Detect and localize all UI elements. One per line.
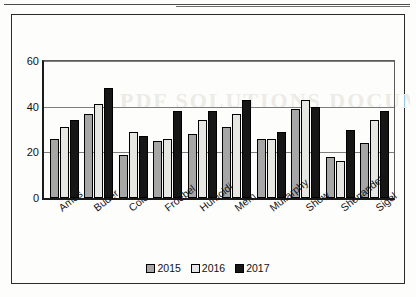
bar-group — [185, 61, 220, 198]
bar-froebel-2015[interactable] — [153, 141, 162, 198]
bar-humoldi-2017[interactable] — [208, 111, 217, 198]
bar-buder-2017[interactable] — [104, 88, 113, 198]
legend-label: 2017 — [246, 262, 269, 274]
bar-group — [254, 61, 289, 198]
bar-colo-2016[interactable] — [129, 132, 138, 198]
bar-ames-2015[interactable] — [50, 139, 59, 198]
y-tick-label: 20 — [27, 146, 39, 158]
bar-humoldi-2016[interactable] — [198, 120, 207, 198]
bar-group — [82, 61, 117, 198]
bar-mullarphy-2015[interactable] — [257, 139, 266, 198]
legend-item-2015[interactable]: 2015 — [146, 262, 180, 274]
bar-group — [47, 61, 82, 198]
x-label-cell: Froebel — [148, 202, 183, 258]
bar-group — [220, 61, 255, 198]
y-tick-label: 40 — [27, 101, 39, 113]
bar-mem-2016[interactable] — [232, 114, 241, 198]
bar-shenandeh-2017[interactable] — [346, 130, 355, 199]
bar-buder-2016[interactable] — [94, 104, 103, 198]
legend-swatch-icon — [191, 264, 200, 273]
legend-label: 2015 — [157, 262, 180, 274]
x-label-cell: Shenandeh — [324, 202, 359, 258]
bar-froebel-2016[interactable] — [163, 139, 172, 198]
legend-swatch-icon — [235, 264, 244, 273]
bar-ames-2016[interactable] — [60, 127, 69, 198]
x-label-cell: Mem — [218, 202, 253, 258]
bar-shenandeh-2016[interactable] — [336, 161, 345, 198]
x-label-cell: Mullarphy — [254, 202, 289, 258]
legend-item-2016[interactable]: 2016 — [191, 262, 225, 274]
bar-froebel-2017[interactable] — [173, 111, 182, 198]
x-label-cell: Buder — [77, 202, 112, 258]
x-label-cell: Humoldi — [183, 202, 218, 258]
x-label-cell: Colo — [113, 202, 148, 258]
bar-group — [323, 61, 358, 198]
legend-label: 2016 — [202, 262, 225, 274]
legend-swatch-icon — [146, 264, 155, 273]
bar-buder-2015[interactable] — [84, 114, 93, 198]
bar-groups — [44, 61, 394, 198]
y-tick-label: 0 — [33, 192, 39, 204]
chart-legend: 201520162017 — [0, 262, 416, 274]
x-label-cell: Sigel — [360, 202, 395, 258]
bar-group — [151, 61, 186, 198]
x-label-cell: Show — [289, 202, 324, 258]
bar-colo-2017[interactable] — [139, 136, 148, 198]
bar-group — [289, 61, 324, 198]
bar-group — [116, 61, 151, 198]
bar-mullarphy-2016[interactable] — [267, 139, 276, 198]
bar-ames-2017[interactable] — [70, 120, 79, 198]
bar-mullarphy-2017[interactable] — [277, 132, 286, 198]
plot-area: 0204060 — [42, 60, 395, 200]
bar-show-2017[interactable] — [311, 107, 320, 198]
x-label-cell: Ames — [42, 202, 77, 258]
bar-mem-2017[interactable] — [242, 100, 251, 198]
chart-page: PDF SOLUTIONS DOCUMENT 0204060 AmesBuder… — [0, 0, 416, 297]
y-tick-label: 60 — [27, 55, 39, 67]
header-rule — [4, 4, 410, 5]
header-rule-secondary — [176, 6, 410, 7]
x-axis-labels: AmesBuderColoFroebelHumoldiMemMullarphyS… — [42, 202, 395, 258]
legend-item-2017[interactable]: 2017 — [235, 262, 269, 274]
bar-colo-2015[interactable] — [119, 155, 128, 198]
